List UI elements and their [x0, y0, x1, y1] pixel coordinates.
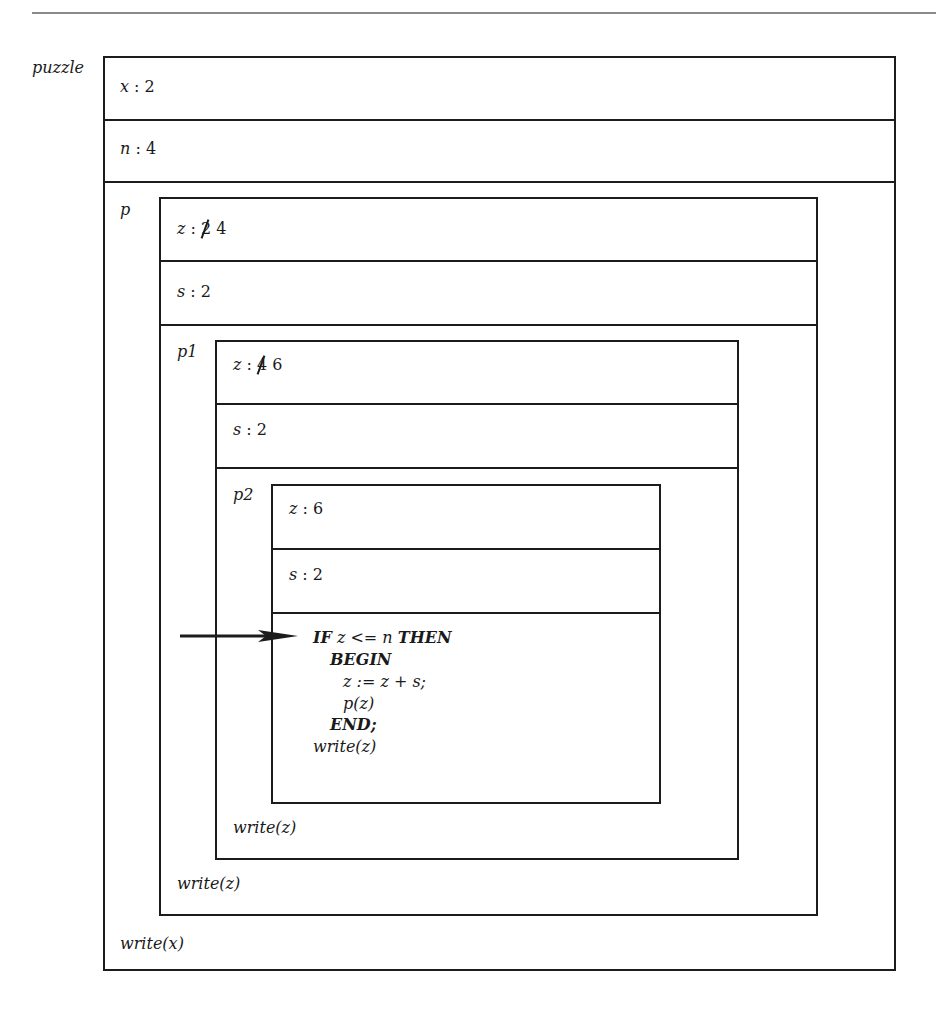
row-divider	[103, 119, 896, 121]
trailer-write-x: write(x)	[120, 935, 184, 953]
struck-old-value: 4	[257, 356, 267, 374]
code-line-if: IF z <= n THEN	[313, 627, 452, 649]
scope-label-p: p	[120, 201, 130, 219]
row-divider	[159, 324, 818, 326]
var-z-p: z : 2 4	[177, 220, 226, 238]
row-divider	[215, 467, 739, 469]
code-line-call: p(z)	[343, 693, 374, 715]
top-rule	[32, 12, 936, 14]
row-divider	[271, 612, 661, 614]
var-s-p2: s : 2	[289, 566, 323, 584]
var-s-p: s : 2	[177, 283, 211, 301]
code-line-end: END;	[330, 714, 377, 736]
var-z-p2: z : 6	[289, 500, 323, 518]
scope-label-p2: p2	[233, 486, 253, 504]
var-n: n : 4	[120, 140, 156, 158]
struck-old-value: 2	[201, 220, 211, 238]
var-x: x : 2	[120, 78, 155, 96]
row-divider	[215, 403, 739, 405]
code-line-assign: z := z + s;	[343, 671, 426, 693]
execution-pointer-arrow-icon	[178, 628, 303, 644]
code-line-begin: BEGIN	[330, 649, 392, 671]
code-line-write: write(z)	[313, 736, 376, 758]
trailer-write-z-p1: write(z)	[233, 819, 296, 837]
trailer-write-z-p: write(z)	[177, 875, 240, 893]
row-divider	[159, 260, 818, 262]
row-divider	[103, 181, 896, 183]
scope-label-p1: p1	[177, 343, 197, 361]
row-divider	[271, 548, 661, 550]
scope-label-puzzle: puzzle	[32, 59, 84, 77]
var-s-p1: s : 2	[233, 421, 267, 439]
var-z-p1: z : 4 6	[233, 356, 282, 374]
